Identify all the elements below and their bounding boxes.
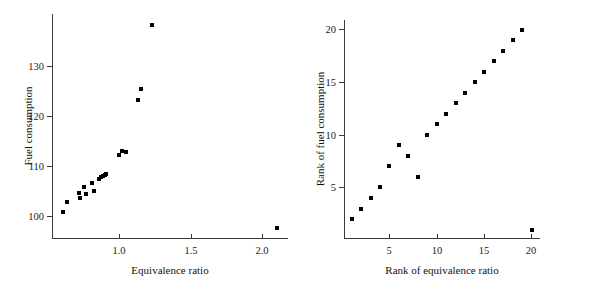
x-axis-tick bbox=[437, 234, 438, 239]
data-point bbox=[425, 133, 429, 137]
panel-fuel-consumption-vs-equivalence-ratio: 1001101201301.01.52.0Equivalence ratioFu… bbox=[0, 0, 297, 293]
data-point bbox=[150, 23, 154, 27]
y-axis-tick bbox=[339, 135, 344, 136]
data-point bbox=[492, 59, 496, 63]
data-point bbox=[369, 196, 373, 200]
data-point bbox=[511, 38, 515, 42]
x-axis-line bbox=[344, 238, 540, 239]
x-axis-tick bbox=[191, 234, 192, 239]
y-axis-tick bbox=[339, 187, 344, 188]
data-point bbox=[501, 49, 505, 53]
data-point bbox=[65, 200, 69, 204]
x-axis-tick-label: 10 bbox=[432, 245, 443, 256]
y-axis-tick-label: 20 bbox=[300, 24, 336, 35]
y-axis-tick-label: 100 bbox=[8, 211, 44, 222]
data-point bbox=[473, 80, 477, 84]
panel-rank-of-fuel-consumption-vs-rank-of-equivalence-ratio: 51015205101520Rank of equivalence ratioR… bbox=[298, 0, 595, 293]
data-point bbox=[530, 228, 534, 232]
y-axis-title: Rank of fuel consumption bbox=[314, 72, 326, 187]
y-axis-tick-label: 130 bbox=[8, 61, 44, 72]
data-point bbox=[350, 217, 354, 221]
data-point bbox=[387, 164, 391, 168]
data-point bbox=[406, 154, 410, 158]
data-point bbox=[463, 91, 467, 95]
x-axis-tick bbox=[119, 234, 120, 239]
data-point bbox=[454, 101, 458, 105]
y-axis-tick bbox=[47, 116, 52, 117]
y-axis-tick bbox=[339, 29, 344, 30]
data-point bbox=[444, 112, 448, 116]
data-point bbox=[124, 150, 128, 154]
x-axis-tick-label: 15 bbox=[479, 245, 490, 256]
data-point bbox=[416, 175, 420, 179]
data-point bbox=[397, 143, 401, 147]
x-axis-tick bbox=[484, 234, 485, 239]
x-axis-tick bbox=[531, 234, 532, 239]
data-point bbox=[77, 191, 81, 195]
data-point bbox=[61, 210, 65, 214]
data-point bbox=[520, 28, 524, 32]
y-axis-tick bbox=[47, 66, 52, 67]
x-axis-title: Rank of equivalence ratio bbox=[385, 264, 498, 276]
y-axis-title: Fuel consumption bbox=[22, 86, 34, 165]
data-point bbox=[117, 153, 121, 157]
x-axis-tick bbox=[389, 234, 390, 239]
data-point bbox=[435, 122, 439, 126]
y-axis-line bbox=[344, 20, 345, 238]
x-axis-tick-label: 20 bbox=[526, 245, 537, 256]
y-axis-tick bbox=[47, 216, 52, 217]
y-axis-tick bbox=[47, 166, 52, 167]
y-axis-line bbox=[52, 14, 53, 238]
y-axis-tick bbox=[339, 82, 344, 83]
x-axis-tick-label: 2.0 bbox=[255, 245, 268, 256]
data-point bbox=[92, 189, 96, 193]
x-axis-tick-label: 1.0 bbox=[112, 245, 125, 256]
data-point bbox=[90, 181, 94, 185]
data-point bbox=[482, 70, 486, 74]
x-axis-line bbox=[52, 238, 288, 239]
x-axis-title: Equivalence ratio bbox=[131, 264, 208, 276]
data-point bbox=[84, 192, 88, 196]
x-axis-tick bbox=[262, 234, 263, 239]
x-axis-tick-label: 1.5 bbox=[184, 245, 197, 256]
data-point bbox=[275, 226, 279, 230]
data-point bbox=[78, 196, 82, 200]
x-axis-tick-label: 5 bbox=[386, 245, 391, 256]
figure-two-scatter-panels: 1001101201301.01.52.0Equivalence ratioFu… bbox=[0, 0, 595, 293]
data-point bbox=[82, 185, 86, 189]
data-point bbox=[139, 87, 143, 91]
data-point bbox=[136, 98, 140, 102]
data-point bbox=[359, 207, 363, 211]
data-point bbox=[378, 185, 382, 189]
data-point bbox=[104, 172, 108, 176]
